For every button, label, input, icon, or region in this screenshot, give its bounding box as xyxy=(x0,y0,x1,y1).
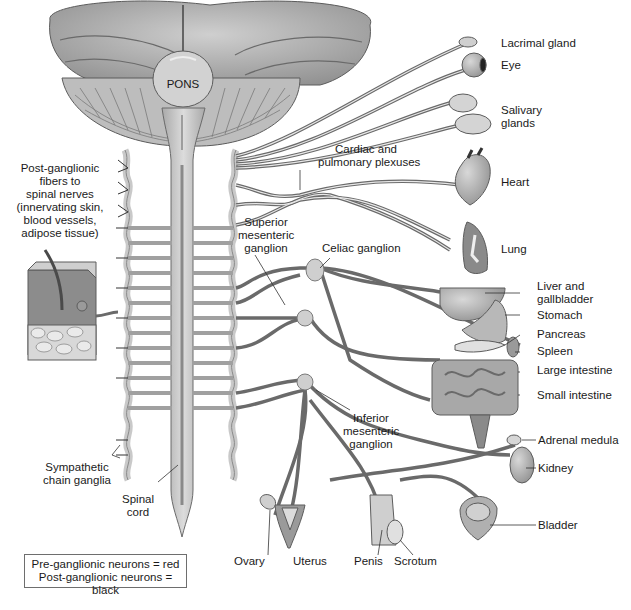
legend-box: Pre-ganglionic neurons = red Post-gangli… xyxy=(24,554,187,588)
label-line: mesenteric xyxy=(238,229,294,242)
label-line: Sympathetic xyxy=(42,461,112,474)
rectum xyxy=(470,415,490,448)
label-line: fibers to xyxy=(14,175,106,188)
organ-label-eye: Eye xyxy=(501,59,521,72)
organ-label-penis: Penis xyxy=(354,555,383,568)
post-ganglionic-label: Post-ganglionic fibers to spinal nerves … xyxy=(14,162,106,240)
label-line: ganglion xyxy=(343,438,399,451)
label-line: ganglion xyxy=(238,242,294,255)
celiac-ganglion-label: Celiac ganglion xyxy=(322,242,401,255)
legend-pre-ganglionic: Pre-ganglionic neurons = red xyxy=(25,558,186,571)
large-intestine xyxy=(432,360,518,415)
organ-label-bladder: Bladder xyxy=(538,519,578,532)
label-line: glands xyxy=(501,117,542,130)
organ-label-ovary: Ovary xyxy=(234,555,265,568)
celiac-ganglion xyxy=(306,259,324,281)
heart xyxy=(455,155,490,205)
label-line: mesenteric xyxy=(343,425,399,438)
superior-mesenteric-ganglion xyxy=(297,310,313,326)
spinal-cord-label: Spinal cord xyxy=(118,493,158,519)
adrenal-medulla xyxy=(507,435,521,445)
lung xyxy=(463,222,488,274)
sympathetic-chain-label: Sympathetic chain ganglia xyxy=(42,461,112,487)
label-line: gallbladder xyxy=(537,293,593,306)
label-line: pulmonary plexuses xyxy=(318,156,414,169)
prevertebral-ganglia xyxy=(297,259,324,390)
organ-label-heart: Heart xyxy=(501,176,529,189)
right-sympathetic-chain xyxy=(192,150,236,480)
ovary xyxy=(260,495,275,510)
organ-label-uterus: Uterus xyxy=(293,555,327,568)
pons-label: PONS xyxy=(167,78,200,90)
organ-label-scrotum: Scrotum xyxy=(394,555,437,568)
organ-label-pancreas: Pancreas xyxy=(537,328,586,341)
organ-label-salivary: Salivary glands xyxy=(501,104,542,130)
organ-label-lacrimal: Lacrimal gland xyxy=(501,37,576,50)
kidney xyxy=(510,447,534,483)
salivary-gland-2 xyxy=(455,114,491,134)
cardiac-plexus-label: Cardiac and pulmonary plexuses xyxy=(318,143,414,169)
label-line: (innervating skin, xyxy=(14,201,106,214)
inferior-mesenteric-label: Inferior mesenteric ganglion xyxy=(343,412,399,451)
organ-label-large-intestine: Large intestine xyxy=(537,364,612,377)
organ-label-lung: Lung xyxy=(501,243,527,256)
left-sympathetic-chain xyxy=(116,150,172,480)
label-line: Liver and xyxy=(537,280,593,293)
label-line: Salivary xyxy=(501,104,542,117)
legend-post-ganglionic: Post-ganglionic neurons = black xyxy=(25,571,186,597)
label-line: cord xyxy=(118,506,158,519)
label-line: spinal nerves xyxy=(14,188,106,201)
inferior-mesenteric-ganglion xyxy=(297,374,313,390)
lacrimal-gland xyxy=(459,37,477,47)
label-line: Spinal xyxy=(118,493,158,506)
salivary-gland-1 xyxy=(449,94,477,112)
organ-label-liver: Liver and gallbladder xyxy=(537,280,593,306)
label-line: Superior xyxy=(238,216,294,229)
organ-label-adrenal: Adrenal medula xyxy=(538,434,619,447)
label-line: chain ganglia xyxy=(42,474,112,487)
label-line: Inferior xyxy=(343,412,399,425)
label-line: Post-ganglionic xyxy=(14,162,106,175)
superior-mesenteric-label: Superior mesenteric ganglion xyxy=(238,216,294,255)
label-line: Cardiac and xyxy=(318,143,414,156)
brain: PONS xyxy=(50,1,371,146)
label-line: adipose tissue) xyxy=(14,227,106,240)
organ-label-kidney: Kidney xyxy=(538,462,573,475)
label-line: blood vessels, xyxy=(14,214,106,227)
skin-tissue-block xyxy=(28,250,118,360)
organ-label-spleen: Spleen xyxy=(537,345,573,358)
organ-label-small-intestine: Small intestine xyxy=(537,389,612,402)
pancreas xyxy=(455,340,505,352)
organ-label-stomach: Stomach xyxy=(537,309,582,322)
